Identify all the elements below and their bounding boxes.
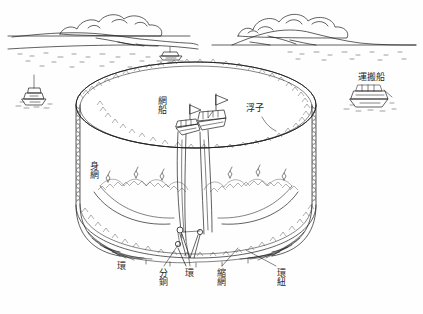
net-mesh-left (76, 106, 80, 202)
water-stipple-right (288, 52, 406, 60)
label-ami-bune: 網船 (156, 96, 168, 114)
cloud-right (238, 14, 348, 38)
horizon-line (8, 36, 416, 45)
label-kan-himo: 環紐 (275, 268, 287, 286)
bunt-bowl-right (204, 165, 298, 224)
boat-left-background (16, 75, 52, 108)
label-mi-ami: 身網 (88, 161, 100, 179)
label-shuku-ami: 縮網 (215, 268, 227, 286)
purse-seine-illustration: .s{fill:none;stroke:#1d1d1d;stroke-width… (0, 0, 423, 314)
label-fundou: 分銅 (157, 268, 169, 286)
label-unpansen: 運搬船 (358, 72, 385, 83)
net-float-ring (76, 59, 316, 148)
label-kan-center: 環 (185, 268, 194, 279)
label-kan-left: 環 (117, 261, 126, 272)
diagram-canvas: .s{fill:none;stroke:#1d1d1d;stroke-width… (0, 0, 423, 314)
boat-horizon-center (157, 47, 183, 62)
label-uki: 浮子 (246, 103, 264, 114)
ring-cord-line (120, 254, 272, 267)
seaweed-tufts-right (228, 165, 286, 180)
purse-bottom-right (240, 232, 304, 260)
bunt-bowl-left (94, 167, 188, 224)
coast-hills-right (232, 30, 416, 45)
coast-hills-left (8, 33, 198, 49)
boat-carrier-right (344, 85, 396, 111)
water-stipple-left (18, 53, 150, 67)
net-mesh-right (312, 106, 316, 202)
